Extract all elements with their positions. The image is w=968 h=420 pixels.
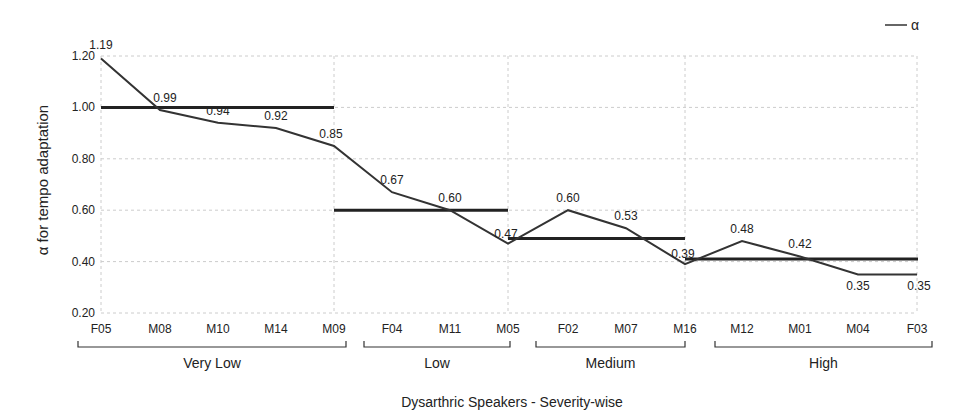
data-label: 0.92: [264, 109, 288, 123]
x-tick-label: M04: [846, 322, 870, 336]
data-label: 0.42: [788, 237, 812, 251]
y-tick-label: 0.40: [72, 255, 96, 269]
x-tick-label: F04: [382, 322, 403, 336]
data-label: 0.85: [319, 127, 343, 141]
legend: α: [885, 17, 919, 33]
x-tick-label: M10: [206, 322, 230, 336]
legend-label: α: [911, 17, 919, 33]
data-label: 0.67: [380, 173, 404, 187]
group-label: High: [809, 355, 838, 371]
data-label: 0.35: [907, 279, 931, 293]
data-label: 0.47: [494, 227, 518, 241]
x-tick-label: M14: [264, 322, 288, 336]
x-tick-label: F02: [558, 322, 579, 336]
y-axis-ticks: 0.200.400.600.801.001.20: [72, 49, 96, 320]
group-bracket: [364, 341, 510, 347]
group-label: Low: [424, 355, 451, 371]
data-labels: 1.190.990.940.920.850.670.600.470.600.53…: [89, 38, 931, 294]
x-tick-label: M09: [322, 322, 346, 336]
group-label: Very Low: [183, 355, 241, 371]
severity-groups: Very LowLowMediumHigh: [78, 341, 932, 371]
x-tick-label: F05: [91, 322, 112, 336]
x-tick-label: M08: [148, 322, 172, 336]
group-bracket: [715, 341, 932, 347]
group-bracket: [536, 341, 685, 347]
x-tick-label: M12: [730, 322, 754, 336]
data-label: 0.99: [153, 91, 177, 105]
group-bracket: [78, 341, 346, 347]
data-label: 0.48: [730, 222, 754, 236]
data-label: 0.35: [846, 279, 870, 293]
group-label: Medium: [586, 355, 636, 371]
gridlines: [101, 56, 917, 313]
x-tick-label: M11: [439, 322, 462, 336]
x-tick-label: M01: [788, 322, 812, 336]
data-label: 1.19: [89, 38, 113, 52]
data-label: 0.60: [438, 191, 462, 205]
y-tick-label: 0.60: [72, 203, 96, 217]
x-tick-label: M16: [673, 322, 697, 336]
data-label: 0.94: [206, 104, 230, 118]
y-tick-label: 0.80: [72, 152, 96, 166]
x-axis-ticks: F05M08M10M14M09F04M11M05F02M07M16M12M01M…: [91, 322, 928, 336]
data-label: 0.39: [671, 247, 695, 261]
line-chart: 0.200.400.600.801.001.20 α for tempo ada…: [0, 0, 968, 420]
x-tick-label: M07: [614, 322, 638, 336]
x-tick-label: M05: [496, 322, 520, 336]
x-axis-label: Dysarthric Speakers - Severity-wise: [401, 394, 623, 410]
y-tick-label: 1.00: [72, 100, 96, 114]
y-tick-label: 0.20: [72, 306, 96, 320]
y-axis-label: α for tempo adaptation: [34, 105, 51, 255]
x-tick-label: F03: [907, 322, 928, 336]
data-label: 0.60: [556, 191, 580, 205]
data-label: 0.53: [614, 209, 638, 223]
